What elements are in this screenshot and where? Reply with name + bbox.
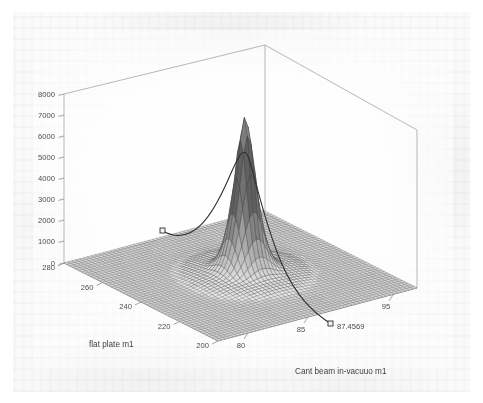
z-axis-tick-labels: 8000 7000 6000 5000 4000 3000 2000 1000 … xyxy=(38,90,55,268)
z-tick-2000: 2000 xyxy=(38,216,55,225)
cut-value-annotation: 87.4569 xyxy=(337,322,364,331)
z-tick-3000: 3000 xyxy=(38,195,55,204)
y-tick-80: 80 xyxy=(237,341,245,350)
z-tick-6000: 6000 xyxy=(38,132,55,141)
x-tick-200: 200 xyxy=(196,341,209,350)
y-axis-label: Cant beam in-vacuuo m1 xyxy=(295,367,387,376)
figure-page: 8000 7000 6000 5000 4000 3000 2000 1000 … xyxy=(0,0,483,403)
scanned-page-area: 8000 7000 6000 5000 4000 3000 2000 1000 … xyxy=(13,12,470,392)
x-tick-220: 220 xyxy=(158,322,171,331)
y-tick-85: 85 xyxy=(297,325,305,334)
x-tick-280: 280 xyxy=(42,263,55,272)
cut-marker-end xyxy=(328,321,333,326)
z-tick-1000: 1000 xyxy=(38,237,55,246)
x-tick-260: 260 xyxy=(81,283,94,292)
surface-plot-svg: 8000 7000 6000 5000 4000 3000 2000 1000 … xyxy=(13,12,470,392)
y-tick-95: 95 xyxy=(382,302,390,311)
cut-marker-start xyxy=(160,228,165,233)
surface-mesh xyxy=(64,118,417,341)
z-axis-ticks xyxy=(59,94,65,264)
z-tick-4000: 4000 xyxy=(38,174,55,183)
z-tick-7000: 7000 xyxy=(38,111,55,120)
x-axis-label: flat plate m1 xyxy=(89,340,134,349)
x-tick-240: 240 xyxy=(119,302,132,311)
z-tick-8000: 8000 xyxy=(38,90,55,99)
z-tick-5000: 5000 xyxy=(38,153,55,162)
